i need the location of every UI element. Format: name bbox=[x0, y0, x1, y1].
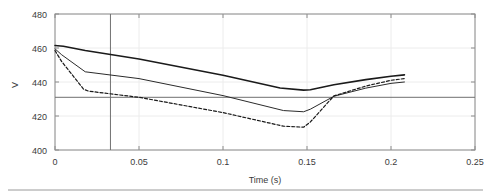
x-tick-label: 0.25 bbox=[466, 157, 484, 167]
chart-canvas: 00.050.10.150.20.25 400420440460480 Time… bbox=[0, 0, 491, 194]
x-tick-label: 0.1 bbox=[217, 157, 230, 167]
x-axis-title: Time (s) bbox=[249, 175, 282, 185]
y-tick-labels: 400420440460480 bbox=[32, 10, 47, 156]
x-tick-label: 0 bbox=[52, 157, 57, 167]
y-tick-label: 400 bbox=[32, 146, 47, 156]
y-tick-label: 420 bbox=[32, 112, 47, 122]
y-tick-label: 460 bbox=[32, 44, 47, 54]
y-tick-label: 440 bbox=[32, 78, 47, 88]
y-tick-label: 480 bbox=[32, 10, 47, 20]
chart-figure: 00.050.10.150.20.25 400420440460480 Time… bbox=[0, 0, 491, 194]
x-tick-label: 0.15 bbox=[298, 157, 316, 167]
y-axis-title: V bbox=[10, 82, 20, 88]
x-tick-label: 0.2 bbox=[385, 157, 398, 167]
x-tick-label: 0.05 bbox=[130, 157, 148, 167]
x-tick-labels: 00.050.10.150.20.25 bbox=[52, 157, 483, 167]
